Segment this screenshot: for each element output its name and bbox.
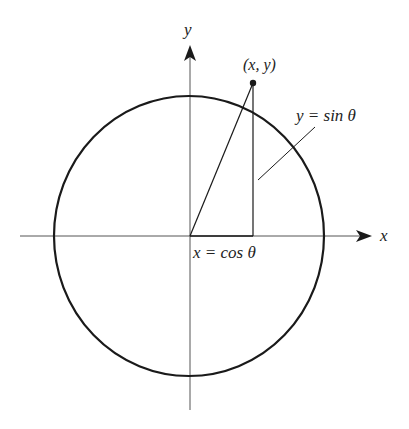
x-axis-label: x — [379, 226, 388, 245]
y-axis-label: y — [182, 20, 192, 39]
point-label: (x, y) — [243, 56, 276, 74]
sin-leader-line — [258, 127, 315, 180]
radius-line — [190, 83, 253, 236]
unit-circle-diagram: y x (x, y) y = sin θ x = cos θ — [0, 0, 409, 429]
sin-label: y = sin θ — [294, 106, 356, 125]
cos-label: x = cos θ — [192, 243, 256, 262]
point-dot-icon — [250, 80, 256, 86]
